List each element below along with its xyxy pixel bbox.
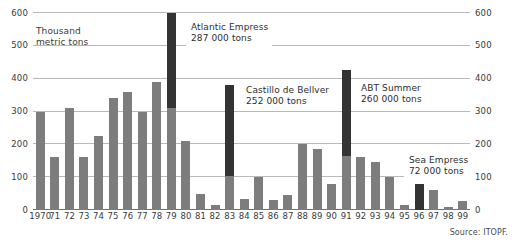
bar-segment-base bbox=[313, 149, 322, 210]
y-tick-left-500: 500 bbox=[11, 41, 28, 50]
y-tick-right-100: 100 bbox=[475, 173, 492, 182]
bar-segment-base bbox=[371, 162, 380, 210]
bar-segment-base bbox=[283, 195, 292, 210]
bar-95[interactable] bbox=[400, 13, 409, 210]
bar-89[interactable] bbox=[313, 13, 322, 210]
bar-99[interactable] bbox=[458, 13, 467, 210]
bar-segment-base bbox=[385, 177, 394, 210]
callout-castillo-de-bellver: Castillo de Bellver 252 000 tons bbox=[241, 83, 333, 110]
bar-segment-base bbox=[196, 194, 205, 210]
bar-segment-base bbox=[269, 200, 278, 210]
callout-name: Sea Empress bbox=[409, 155, 468, 166]
callout-name: Atlantic Empress bbox=[191, 22, 268, 33]
bar-segment-highlight bbox=[415, 184, 424, 210]
bar-98[interactable] bbox=[444, 13, 453, 210]
y-tick-right-0: 0 bbox=[475, 206, 481, 215]
bar-79[interactable] bbox=[167, 13, 176, 210]
callout-name: Castillo de Bellver bbox=[246, 85, 329, 96]
y-tick-left-200: 200 bbox=[11, 140, 28, 149]
bar-97[interactable] bbox=[429, 13, 438, 210]
bar-94[interactable] bbox=[385, 13, 394, 210]
bar-segment-base bbox=[94, 136, 103, 210]
bar-segment-base bbox=[167, 108, 176, 210]
y-tick-left-300: 300 bbox=[11, 107, 28, 116]
bar-segment-base bbox=[152, 82, 161, 210]
bar-77[interactable] bbox=[138, 13, 147, 210]
bar-segment-base bbox=[400, 205, 409, 210]
y-tick-right-300: 300 bbox=[475, 107, 492, 116]
y-tick-left-600: 600 bbox=[11, 9, 28, 18]
bar-segment-highlight bbox=[225, 85, 234, 175]
bar-91[interactable] bbox=[342, 13, 351, 210]
bar-90[interactable] bbox=[327, 13, 336, 210]
bar-segment-base bbox=[298, 144, 307, 210]
bar-segment-base bbox=[36, 112, 45, 211]
bar-segment-base bbox=[138, 112, 147, 211]
bar-segment-highlight bbox=[342, 70, 351, 155]
callout-value: 260 000 tons bbox=[361, 94, 422, 105]
oil-spill-bar-chart: 0100200300400500600 0100200300400500600 … bbox=[0, 0, 517, 243]
callout-sea-empress: Sea Empress 72 000 tons bbox=[404, 153, 472, 180]
bar-segment-base bbox=[79, 157, 88, 210]
x-label-99: 99 bbox=[451, 212, 474, 221]
callout-abt-summer: ABT Summer 260 000 tons bbox=[356, 81, 426, 108]
y-axis-title: Thousand metric tons bbox=[36, 26, 88, 48]
bar-segment-base bbox=[342, 156, 351, 210]
bar-93[interactable] bbox=[371, 13, 380, 210]
bar-87[interactable] bbox=[283, 13, 292, 210]
source-note: Source: ITOPF. bbox=[450, 228, 508, 237]
bar-segment-base bbox=[240, 199, 249, 210]
bar-segment-base bbox=[429, 190, 438, 210]
y-tick-right-500: 500 bbox=[475, 41, 492, 50]
y-tick-right-400: 400 bbox=[475, 74, 492, 83]
bar-96[interactable] bbox=[415, 13, 424, 210]
bar-segment-base bbox=[109, 98, 118, 210]
bar-74[interactable] bbox=[94, 13, 103, 210]
bar-segment-base bbox=[65, 108, 74, 210]
bar-segment-base bbox=[181, 141, 190, 210]
bar-segment-base bbox=[123, 92, 132, 210]
bar-92[interactable] bbox=[356, 13, 365, 210]
bar-segment-highlight bbox=[167, 13, 176, 108]
bar-segment-base bbox=[254, 177, 263, 210]
bar-segment-base bbox=[211, 205, 220, 210]
bar-76[interactable] bbox=[123, 13, 132, 210]
callout-value: 252 000 tons bbox=[246, 96, 329, 107]
y-tick-left-100: 100 bbox=[11, 173, 28, 182]
bar-segment-base bbox=[225, 176, 234, 210]
bar-88[interactable] bbox=[298, 13, 307, 210]
y-tick-left-0: 0 bbox=[22, 206, 28, 215]
bar-segment-base bbox=[458, 201, 467, 210]
y-tick-right-200: 200 bbox=[475, 140, 492, 149]
bar-78[interactable] bbox=[152, 13, 161, 210]
callout-atlantic-empress: Atlantic Empress 287 000 tons bbox=[186, 20, 272, 47]
y-tick-left-400: 400 bbox=[11, 74, 28, 83]
callout-value: 72 000 tons bbox=[409, 166, 468, 177]
y-tick-right-600: 600 bbox=[475, 9, 492, 18]
callout-name: ABT Summer bbox=[361, 83, 422, 94]
callout-value: 287 000 tons bbox=[191, 33, 268, 44]
bar-segment-base bbox=[356, 157, 365, 210]
bar-segment-base bbox=[444, 207, 453, 210]
bar-segment-base bbox=[50, 157, 59, 210]
x-axis-labels: 1970717273747576777879808182838485868788… bbox=[33, 212, 470, 226]
bar-segment-base bbox=[327, 184, 336, 210]
bar-75[interactable] bbox=[109, 13, 118, 210]
